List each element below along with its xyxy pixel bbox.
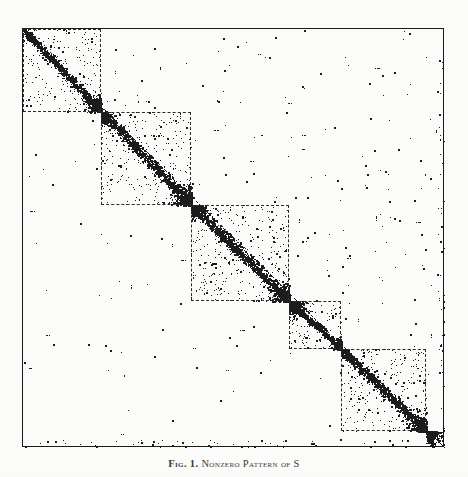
caption-text: Nonzero Pattern of S [201,458,299,469]
plot-frame [22,28,444,447]
figure-caption: Fig. 1. Nonzero Pattern of S [0,458,468,477]
sparse-matrix-scatter [23,29,445,448]
caption-label: Fig. 1. [168,458,198,469]
figure-spy-plot [0,0,468,455]
